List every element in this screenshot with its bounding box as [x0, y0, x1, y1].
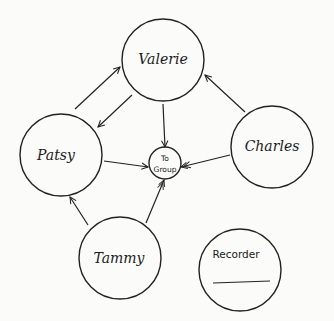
node-label-tammy: Tammy [93, 250, 145, 266]
edge-charles-to-group [181, 155, 230, 167]
node-label-patsy: Patsy [36, 147, 76, 163]
edge-valerie-to-patsy [98, 95, 132, 127]
node-label-recorder: Recorder [212, 248, 260, 260]
edge-patsy-to-group [104, 161, 148, 167]
node-recorder: Recorder [199, 229, 281, 311]
recorder-signature-line [213, 281, 270, 283]
edge-patsy-to-valerie [75, 67, 120, 109]
node-label-to-group-line1: To [160, 154, 169, 163]
node-patsy: Patsy [20, 114, 102, 196]
sociogram-diagram: Valerie Patsy Charles To Group Tammy Rec… [0, 0, 334, 321]
node-label-valerie: Valerie [138, 51, 187, 67]
node-charles: Charles [231, 106, 313, 188]
edge-valerie-to-group [163, 104, 165, 147]
node-label-charles: Charles [245, 138, 300, 154]
edge-tammy-to-group [146, 180, 164, 223]
node-label-to-group-line2: Group [154, 165, 177, 174]
edges [70, 67, 245, 225]
edge-charles-to-valerie [205, 75, 245, 112]
node-to-group: To Group [149, 147, 181, 179]
edge-tammy-to-patsy [70, 197, 88, 225]
node-valerie: Valerie [122, 19, 204, 101]
node-tammy: Tammy [79, 217, 161, 299]
